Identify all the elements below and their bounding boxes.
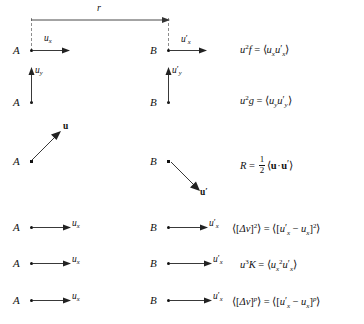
- row5-right-arrow: [170, 258, 216, 269]
- row5-right-vector-label: u′x: [213, 254, 223, 267]
- row4-formula: ⟨[Δv]2⟩=⟨[u′x−ux]2⟩: [232, 220, 320, 239]
- figure-canvas: r A ux B u′x u2f=⟨uxu′x⟩ A uy B u′y u2g=…: [0, 0, 364, 324]
- row3-left-vector-label: u: [63, 122, 68, 132]
- row4-left-vector-label: ux: [72, 219, 80, 231]
- row1-left-vector-label: ux: [44, 34, 52, 46]
- row6-formula: ⟨[Δv]p⟩=⟨[u′x−ux]p⟩: [232, 293, 320, 312]
- separation-arrow: [28, 14, 174, 26]
- row3-point-a-label: A: [13, 156, 20, 167]
- row5-formula: u3K=⟨ux2u′x⟩: [240, 256, 297, 275]
- row6-right-vector-label: u′x: [213, 291, 223, 304]
- row2-right-vector-label: u′y: [172, 65, 182, 78]
- row1-point-b-label: B: [150, 45, 157, 56]
- row2-formula: u2g=⟨uyu′y⟩: [240, 92, 292, 111]
- row2-left-vector-label: uy: [35, 66, 43, 78]
- row6-right-arrow: [170, 295, 216, 306]
- row5-point-a-label: A: [13, 258, 20, 269]
- row1-right-arrow: [170, 45, 210, 56]
- row4-point-b-label: B: [150, 222, 157, 233]
- row1-formula: u2f=⟨uxu′x⟩: [240, 41, 289, 60]
- row5-left-arrow: [33, 258, 75, 269]
- row4-point-a-label: A: [13, 222, 20, 233]
- row2-point-a-label: A: [13, 97, 20, 108]
- row4-left-arrow: [33, 222, 75, 233]
- row1-left-arrow: [33, 45, 73, 56]
- row3-formula: R=12⟨u·u′⟩: [240, 155, 293, 175]
- row5-left-vector-label: ux: [72, 255, 80, 267]
- row4-right-vector-label: u′x: [209, 218, 219, 231]
- row3-left-arrow: [29, 127, 65, 163]
- row3-right-vector-label: u′: [200, 187, 208, 198]
- row6-point-b-label: B: [150, 295, 157, 306]
- row4-right-arrow: [170, 222, 212, 233]
- row5-point-b-label: B: [150, 258, 157, 269]
- separation-label: r: [97, 3, 101, 13]
- row3-point-b-label: B: [150, 156, 157, 167]
- row1-right-vector-label: u′x: [181, 34, 191, 47]
- row2-point-b-label: B: [150, 97, 157, 108]
- row6-left-arrow: [33, 295, 75, 306]
- row6-left-vector-label: ux: [72, 292, 80, 304]
- row6-point-a-label: A: [13, 295, 20, 306]
- row1-point-a-label: A: [13, 45, 20, 56]
